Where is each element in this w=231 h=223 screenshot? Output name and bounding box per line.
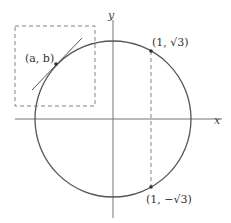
y-axis-label: y xyxy=(107,9,115,22)
point-a-b-label: (a, b) xyxy=(25,52,54,65)
point-a-b-marker xyxy=(54,62,58,66)
x-axis-label: x xyxy=(214,114,221,127)
point-1-sqrt3-marker xyxy=(149,49,153,53)
point-1-sqrt3-label: (1, √3) xyxy=(152,36,189,49)
point-1-neg-sqrt3-label: (1, −√3) xyxy=(146,193,192,206)
diagram-canvas: x y (a, b) (1, √3) (1, −√3) xyxy=(0,0,231,223)
point-1-neg-sqrt3-marker xyxy=(149,185,153,189)
